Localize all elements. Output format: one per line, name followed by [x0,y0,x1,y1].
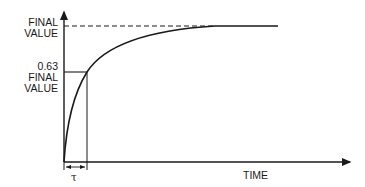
label-line: VALUE [8,83,58,94]
exponential-curve [64,26,278,162]
final-value-label: FINAL VALUE [8,17,58,39]
time-axis-label: TIME [243,170,268,181]
tau-label: τ [68,172,80,183]
063-final-value-label: 0.63 FINAL VALUE [8,61,58,94]
label-line: VALUE [8,28,58,39]
